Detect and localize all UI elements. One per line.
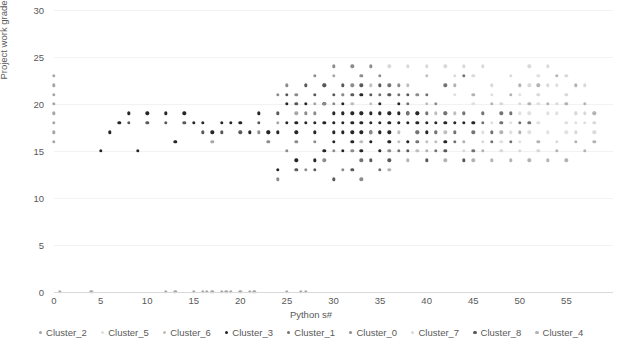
x-tick-label: 15 xyxy=(188,295,199,306)
data-point xyxy=(453,83,456,86)
data-point xyxy=(593,130,596,133)
data-point xyxy=(313,121,316,124)
data-point xyxy=(397,102,400,105)
legend-marker-icon xyxy=(101,331,104,334)
data-point xyxy=(397,149,400,152)
data-point xyxy=(360,140,363,143)
data-point xyxy=(583,112,586,115)
data-point xyxy=(248,130,251,133)
data-point xyxy=(378,149,381,152)
data-point xyxy=(425,140,428,143)
data-point xyxy=(257,130,260,133)
data-point xyxy=(462,159,465,162)
y-tick-label: 5 xyxy=(0,240,44,251)
x-tick-label: 25 xyxy=(282,295,293,306)
data-point xyxy=(537,93,540,96)
data-point xyxy=(360,112,363,115)
legend-item[interactable]: Cluster_3 xyxy=(225,327,273,338)
data-point xyxy=(211,140,214,143)
legend-label: Cluster_3 xyxy=(232,327,273,338)
data-point xyxy=(406,93,409,96)
legend-marker-icon xyxy=(39,331,42,334)
data-point xyxy=(341,130,344,133)
data-point xyxy=(183,112,186,115)
data-point xyxy=(490,140,493,143)
data-point xyxy=(416,130,419,133)
legend-item[interactable]: Cluster_0 xyxy=(349,327,397,338)
data-point xyxy=(145,112,148,115)
legend-item[interactable]: Cluster_2 xyxy=(39,327,87,338)
data-point xyxy=(537,121,540,124)
legend-label: Cluster_1 xyxy=(294,327,335,338)
data-point xyxy=(267,140,270,143)
data-point xyxy=(360,121,363,124)
data-point xyxy=(527,102,530,105)
data-point xyxy=(462,65,465,68)
data-point xyxy=(499,102,502,105)
data-point xyxy=(360,130,363,133)
data-point xyxy=(257,112,260,115)
x-tick-label: 55 xyxy=(561,295,572,306)
data-point xyxy=(527,65,530,68)
data-point xyxy=(378,168,381,171)
data-point xyxy=(313,159,316,162)
data-point xyxy=(555,112,558,115)
data-point xyxy=(127,121,130,124)
legend-item[interactable]: Cluster_4 xyxy=(535,327,583,338)
legend-item[interactable]: Cluster_7 xyxy=(411,327,459,338)
data-point xyxy=(565,102,568,105)
data-point xyxy=(453,93,456,96)
x-tick-label: 20 xyxy=(235,295,246,306)
data-point xyxy=(220,130,223,133)
data-point xyxy=(332,74,335,77)
data-point xyxy=(332,112,335,115)
data-point xyxy=(518,140,521,143)
data-point xyxy=(322,121,325,124)
data-point xyxy=(220,121,223,124)
gridline xyxy=(54,198,613,199)
data-point xyxy=(350,149,353,152)
data-point xyxy=(453,121,456,124)
data-point xyxy=(52,130,55,133)
data-point xyxy=(425,121,428,124)
data-point xyxy=(378,83,381,86)
data-point xyxy=(369,159,372,162)
data-point xyxy=(583,149,586,152)
plot-area xyxy=(54,10,613,292)
data-point xyxy=(490,93,493,96)
data-point xyxy=(360,74,363,77)
data-point xyxy=(295,102,298,105)
data-point xyxy=(52,112,55,115)
data-point xyxy=(369,112,372,115)
legend-item[interactable]: Cluster_6 xyxy=(163,327,211,338)
data-point xyxy=(546,159,549,162)
data-point xyxy=(425,74,428,77)
data-point xyxy=(425,112,428,115)
data-point xyxy=(388,83,391,86)
chart-legend: Cluster_2Cluster_5Cluster_6Cluster_3Clus… xyxy=(0,327,622,338)
data-point xyxy=(183,121,186,124)
data-point xyxy=(295,168,298,171)
data-point xyxy=(499,149,502,152)
data-point xyxy=(416,112,419,115)
data-point xyxy=(397,83,400,86)
data-point xyxy=(509,112,512,115)
data-point xyxy=(397,121,400,124)
data-point xyxy=(444,130,447,133)
data-point xyxy=(313,168,316,171)
legend-label: Cluster_0 xyxy=(356,327,397,338)
legend-item[interactable]: Cluster_1 xyxy=(287,327,335,338)
data-point xyxy=(593,112,596,115)
data-point xyxy=(369,121,372,124)
data-point xyxy=(350,121,353,124)
data-point xyxy=(574,112,577,115)
data-point xyxy=(332,177,335,180)
legend-item[interactable]: Cluster_5 xyxy=(101,327,149,338)
data-point xyxy=(481,149,484,152)
data-point xyxy=(499,112,502,115)
data-point xyxy=(313,140,316,143)
data-point xyxy=(481,140,484,143)
y-tick-label: 15 xyxy=(0,146,44,157)
legend-marker-icon xyxy=(287,331,290,334)
legend-item[interactable]: Cluster_8 xyxy=(473,327,521,338)
